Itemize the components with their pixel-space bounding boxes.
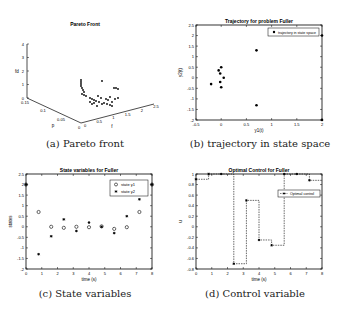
z-tick-label: 2 xyxy=(22,69,25,74)
trajectory-point xyxy=(219,72,222,75)
y-tick-label: 0.8 xyxy=(188,182,194,187)
legend: Optimal control xyxy=(278,190,320,197)
x-tick-label: 6 xyxy=(289,271,292,276)
y-tick-label: -1 xyxy=(190,96,194,101)
y-tick-label: -1 xyxy=(20,245,24,250)
caption-b: (b) trajectory in state space xyxy=(180,138,340,149)
f-tick-label: 0.5 xyxy=(96,119,102,124)
caption-c: (c) State variables xyxy=(25,288,145,299)
f-tick-label: 1.5 xyxy=(125,112,131,117)
x-tick-label: 4 xyxy=(88,271,91,276)
legend-label: state y1 xyxy=(121,182,136,187)
figure-pareto-front: Pareto Front01234fd0.150.10.050p00.511.5… xyxy=(0,0,170,135)
y-tick-label: -1.5 xyxy=(187,107,195,112)
pareto-point xyxy=(91,98,93,100)
legend: trajectory in state space xyxy=(268,28,319,36)
x-tick-label: 8 xyxy=(151,271,154,276)
legend-label: Optimal control xyxy=(290,192,314,196)
y-tick-label: -0.2 xyxy=(187,235,195,240)
pareto-point xyxy=(83,94,85,96)
y-tick-label: 0 xyxy=(22,224,25,229)
x-tick-label: 1 xyxy=(211,271,214,276)
x-tick-label: 1 xyxy=(270,122,273,127)
control-point xyxy=(220,173,222,175)
plot-area xyxy=(196,25,322,120)
pareto-point xyxy=(89,97,91,99)
pareto-point xyxy=(96,105,98,107)
legend-label: trajectory in state space xyxy=(278,31,316,35)
state-variables-chart: State variables for Fuller012345678-2-1.… xyxy=(0,152,170,284)
pareto-point xyxy=(93,99,95,101)
trajectory-chart: Trajectory for problem Fuller-0.500.511.… xyxy=(170,0,340,135)
pareto-point xyxy=(98,101,100,103)
f-tick-label: 2.5 xyxy=(153,104,159,109)
x-tick-label: 5 xyxy=(274,271,277,276)
y-tick-label: 0.4 xyxy=(188,203,194,208)
pareto-front-chart: Pareto Front01234fd0.150.10.050p00.511.5… xyxy=(0,0,170,135)
pareto-point xyxy=(103,102,105,104)
pareto-point xyxy=(111,101,113,103)
pareto-point xyxy=(85,95,87,97)
x-tick-label: 8 xyxy=(321,271,324,276)
y-tick-label: 1.5 xyxy=(18,193,24,198)
x-tick-label: 2 xyxy=(56,271,59,276)
pareto-point xyxy=(111,105,113,107)
y-tick-label: 2.5 xyxy=(188,23,194,28)
x-tick-label: 0 xyxy=(220,122,223,127)
pareto-point xyxy=(117,88,119,90)
figure-trajectory: Trajectory for problem Fuller-0.500.511.… xyxy=(170,0,340,135)
y-tick-label: 0.6 xyxy=(188,193,194,198)
x-tick-label: 3 xyxy=(242,271,245,276)
y-tick-label: 1.5 xyxy=(188,44,194,49)
y-tick-label: 1 xyxy=(22,203,25,208)
z-tick-label: 4 xyxy=(22,42,25,47)
f-axis-label: f xyxy=(111,124,113,129)
p-axis xyxy=(27,98,81,123)
trajectory-point xyxy=(255,104,258,107)
y-tick-label: 1 xyxy=(192,54,195,59)
p-tick-label: 0.1 xyxy=(40,108,46,113)
z-axis-label: fd xyxy=(15,69,19,74)
y-tick-label: -0.8 xyxy=(187,267,195,272)
pareto-point xyxy=(106,103,108,105)
pareto-point xyxy=(109,96,111,98)
state-y2-point xyxy=(100,225,103,228)
pareto-point xyxy=(80,85,82,87)
state-y2-point xyxy=(50,235,53,238)
chart-title: State variables for Fuller xyxy=(60,167,118,173)
p-tick-label: 0.05 xyxy=(57,117,66,122)
trajectory-point xyxy=(321,34,324,37)
z-tick-label: 3 xyxy=(22,55,25,60)
x-tick-label: 5 xyxy=(104,271,107,276)
caption-a: (a) Pareto front xyxy=(25,138,145,149)
p-axis-label: p xyxy=(52,123,55,128)
trajectory-point xyxy=(220,86,223,89)
chart-title: Pareto Front xyxy=(70,21,100,27)
f-tick-label: 2 xyxy=(141,108,144,113)
trajectory-point xyxy=(220,66,223,69)
x-tick-label: 7 xyxy=(135,271,138,276)
y-tick-label: 0 xyxy=(192,224,195,229)
pareto-point xyxy=(91,103,93,105)
pareto-point xyxy=(117,97,119,99)
pareto-point xyxy=(95,100,97,102)
y-tick-label: 2 xyxy=(192,33,195,38)
trajectory-point xyxy=(255,49,258,52)
f-tick-label: 1 xyxy=(112,115,115,120)
plot-area xyxy=(196,174,322,269)
state-y2-point xyxy=(75,230,78,233)
trajectory-point xyxy=(219,81,222,84)
trajectory-point xyxy=(222,76,225,79)
x-tick-label: 4 xyxy=(258,271,261,276)
x-tick-label: 2 xyxy=(321,122,324,127)
x-axis-label: time (s) xyxy=(82,277,98,282)
y-tick-label: 0.2 xyxy=(188,214,194,219)
y-axis-label: states xyxy=(8,215,13,228)
y-tick-label: -0.4 xyxy=(187,245,195,250)
pareto-point xyxy=(89,101,91,103)
x-tick-label: 6 xyxy=(119,271,122,276)
x-tick-label: 1 xyxy=(41,271,44,276)
pareto-point xyxy=(105,98,107,100)
caption-d: (d) Control variable xyxy=(190,288,320,299)
trajectory-point xyxy=(321,119,324,122)
